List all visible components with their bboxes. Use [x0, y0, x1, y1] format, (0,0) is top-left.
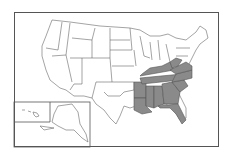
state-alaska — [40, 104, 88, 142]
us-map — [0, 0, 231, 158]
state-hawaii — [22, 110, 39, 117]
state-mississippi — [146, 86, 154, 108]
inset-alaska-hawaii — [14, 102, 90, 147]
state-arkansas — [134, 82, 146, 98]
